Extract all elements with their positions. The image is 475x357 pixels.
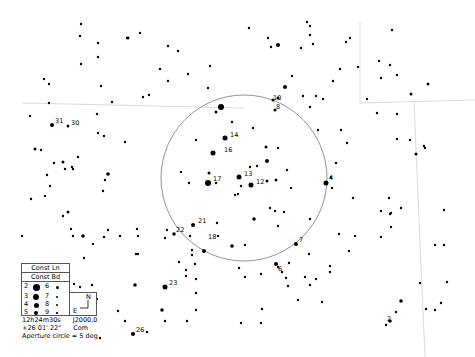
star[interactable] — [148, 94, 150, 96]
star[interactable] — [340, 129, 342, 131]
star[interactable] — [79, 286, 81, 288]
star[interactable] — [40, 149, 42, 151]
star[interactable] — [104, 179, 106, 181]
star[interactable] — [385, 324, 387, 326]
star[interactable] — [434, 309, 436, 311]
star[interactable] — [244, 276, 246, 278]
star[interactable] — [260, 273, 262, 275]
star[interactable] — [137, 235, 139, 237]
star[interactable] — [269, 207, 271, 209]
star[interactable] — [99, 337, 101, 339]
star[interactable] — [277, 225, 279, 227]
star[interactable] — [249, 183, 254, 188]
star[interactable] — [117, 310, 119, 312]
star[interactable] — [234, 194, 236, 196]
star[interactable] — [97, 42, 99, 44]
star[interactable] — [252, 217, 256, 221]
star[interactable] — [102, 190, 104, 192]
star[interactable] — [249, 166, 251, 168]
star[interactable] — [62, 161, 65, 164]
star[interactable] — [332, 80, 334, 82]
star[interactable] — [288, 262, 290, 264]
star[interactable] — [266, 180, 269, 183]
star[interactable] — [97, 132, 99, 134]
star[interactable] — [240, 185, 242, 187]
star[interactable] — [270, 46, 272, 48]
star[interactable] — [107, 229, 109, 231]
star[interactable] — [265, 146, 268, 149]
star[interactable] — [331, 187, 333, 189]
star[interactable] — [378, 60, 380, 62]
star[interactable] — [92, 243, 94, 245]
star[interactable] — [124, 141, 126, 143]
star[interactable] — [185, 269, 187, 271]
star[interactable] — [322, 98, 324, 100]
star[interactable] — [106, 172, 110, 176]
star[interactable] — [309, 106, 311, 108]
star[interactable] — [415, 153, 418, 156]
star[interactable] — [80, 23, 82, 25]
star[interactable] — [308, 253, 310, 255]
star[interactable] — [283, 85, 287, 89]
star[interactable] — [391, 29, 393, 31]
star[interactable] — [260, 322, 262, 324]
star[interactable] — [261, 308, 263, 310]
star[interactable] — [96, 113, 98, 115]
star[interactable] — [208, 172, 211, 175]
star[interactable] — [302, 95, 304, 97]
star[interactable] — [339, 68, 341, 70]
star[interactable] — [321, 301, 323, 303]
star[interactable] — [195, 292, 197, 294]
legend-const-lines[interactable]: Const Ln — [22, 264, 69, 273]
star[interactable] — [338, 233, 340, 235]
star[interactable] — [135, 253, 137, 255]
star[interactable] — [73, 283, 75, 285]
star[interactable] — [30, 198, 32, 200]
star[interactable] — [265, 159, 269, 163]
star[interactable] — [238, 267, 240, 269]
star[interactable] — [389, 64, 391, 66]
star[interactable] — [244, 244, 246, 246]
star[interactable] — [191, 249, 193, 251]
star[interactable] — [202, 249, 206, 253]
star[interactable] — [346, 142, 348, 144]
star[interactable] — [223, 136, 228, 141]
star[interactable] — [287, 285, 289, 287]
star[interactable] — [419, 282, 421, 284]
star[interactable] — [349, 37, 351, 39]
star[interactable] — [440, 302, 442, 304]
star[interactable] — [324, 181, 329, 186]
star[interactable] — [71, 166, 73, 168]
star[interactable] — [186, 320, 188, 322]
star[interactable] — [300, 47, 302, 49]
star[interactable] — [53, 162, 55, 164]
star[interactable] — [80, 63, 82, 65]
star[interactable] — [72, 235, 74, 237]
star[interactable] — [166, 229, 168, 231]
star[interactable] — [167, 80, 169, 82]
star[interactable] — [317, 129, 319, 131]
star[interactable] — [216, 222, 218, 224]
star[interactable] — [366, 98, 368, 100]
star[interactable] — [335, 162, 337, 164]
star[interactable] — [396, 113, 398, 115]
star[interactable] — [48, 102, 50, 104]
star[interactable] — [380, 236, 382, 238]
star[interactable] — [309, 284, 311, 286]
star[interactable] — [443, 244, 445, 246]
star[interactable] — [446, 281, 448, 283]
star[interactable] — [195, 278, 197, 280]
star[interactable] — [275, 179, 278, 182]
star[interactable] — [136, 228, 138, 230]
star[interactable] — [410, 93, 413, 96]
star[interactable] — [49, 185, 51, 187]
star[interactable] — [390, 212, 392, 214]
star[interactable] — [21, 235, 23, 237]
star[interactable] — [400, 207, 402, 209]
star[interactable] — [215, 111, 218, 114]
star[interactable] — [286, 169, 288, 171]
star[interactable] — [354, 235, 356, 237]
star[interactable] — [126, 37, 128, 39]
star[interactable] — [167, 45, 169, 47]
star[interactable] — [297, 299, 299, 301]
